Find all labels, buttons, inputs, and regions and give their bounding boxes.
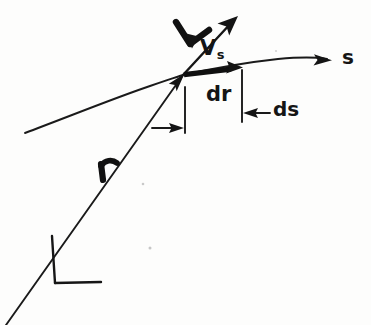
label-ds: ds [273,99,299,119]
label-dr: dr [206,84,231,105]
kinematics-figure: Vs dr ds s [0,0,371,325]
label-arc-length-axis: s [342,47,354,67]
label-vs-base: V [200,36,217,60]
paper-speck [275,50,277,52]
dr-dimension-arrow [152,123,184,133]
coordinate-axes [52,236,101,283]
label-vs-subscript: s [217,47,225,62]
label-speed-vs: Vs [200,38,225,59]
label-dr-d: d [206,82,221,106]
paper-speck [142,183,145,186]
s-axis-arrowhead [314,54,333,65]
paper-speck [149,247,152,250]
label-dr-r: r [221,82,231,106]
trajectory-curve [25,54,332,133]
axis-horizontal [55,282,101,283]
velocity-arrowhead [218,16,239,36]
ds-dimension-arrow [243,108,270,118]
position-vector-line [6,74,185,325]
figure-canvas [0,0,371,325]
axis-vertical [52,236,55,283]
